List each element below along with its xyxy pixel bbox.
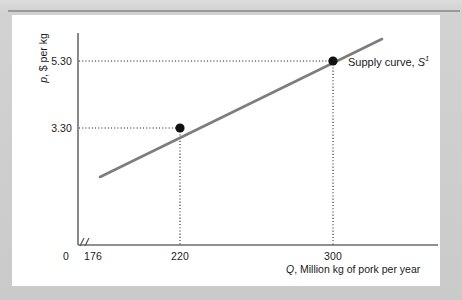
supply-curve-label-superscript: 1 [425,54,429,63]
data-point-marker-300 [328,56,337,65]
x-tick-label-0: 0 [58,250,74,262]
y-tick-label-330: 3.30 [36,122,72,134]
x-axis-title-rest: , Million kg of pork per year [294,263,420,275]
x-tick-label-176: 176 [78,250,108,262]
x-tick-label-220: 220 [165,250,195,262]
y-axis-title-symbol: p [37,77,49,83]
figure-background: 5.30 3.30 0 176 220 300 p, $ per kg Q, M… [0,0,462,300]
x-axis-title: Q, Million kg of pork per year [286,263,420,275]
x-tick-label-300: 300 [318,250,348,262]
x-axis-title-symbol: Q [286,263,294,275]
supply-curve-label: Supply curve, S1 [348,54,429,68]
supply-curve-label-text: Supply curve, [348,56,418,68]
supply-curve-line [100,39,382,177]
y-axis-title-rest: , $ per kg [37,33,49,77]
data-point-marker-220 [175,123,184,132]
y-axis-title: p, $ per kg [37,13,49,103]
supply-curve-label-symbol: S [418,56,425,68]
